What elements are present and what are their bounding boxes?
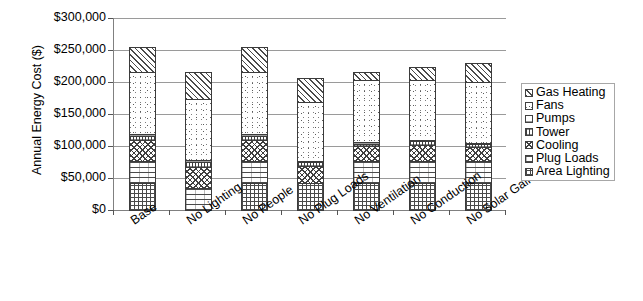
y-axis-tick-label: $150,000 [16,106,106,120]
bar-base [129,47,156,210]
legend-swatch-icon [525,102,533,110]
plot-area [113,18,506,211]
legend-swatch-icon [525,168,533,176]
bar-no-plug-loads [297,78,324,210]
x-axis-tick-mark [113,210,114,215]
bar-segment-fans [465,82,492,143]
x-axis-tick-mark [393,210,394,215]
bar-segment-fans [297,102,324,162]
gridline [114,50,506,51]
bar-segment-cooling [353,146,380,162]
legend: Gas HeatingFansPumpsTowerCoolingPlug Loa… [521,83,615,181]
bar-segment-cooling [185,167,212,189]
legend-item-pumps: Pumps [525,112,610,125]
bar-segment-plug-loads [241,161,268,184]
bar-segment-fans [241,72,268,135]
bar-segment-gas-heating [185,72,212,100]
bar-segment-gas-heating [129,47,156,73]
legend-swatch-icon [525,115,533,123]
energy-cost-stacked-bar-chart: Annual Energy Cost ($) $300,000$250,000$… [0,0,643,301]
legend-item-label: Tower [536,126,569,139]
legend-swatch-icon [525,89,533,97]
bar-segment-cooling [465,147,492,162]
legend-item-label: Pumps [536,112,575,125]
bar-segment-gas-heating [353,72,380,82]
legend-swatch-icon [525,128,533,136]
y-axis-tick-label: $100,000 [16,138,106,152]
y-axis-tick-label: $50,000 [16,170,106,184]
bar-segment-cooling [409,145,436,163]
legend-item-tower: Tower [525,126,610,139]
bar-segment-gas-heating [465,63,492,83]
x-axis-tick-mark [449,210,450,215]
legend-item-cooling: Cooling [525,139,610,152]
y-axis-tick-label: $250,000 [16,42,106,56]
bar-segment-fans [185,99,212,162]
y-axis-tick-label: $200,000 [16,74,106,88]
x-axis-tick-mark [281,210,282,215]
bar-segment-plug-loads [129,161,156,184]
legend-swatch-icon [525,155,533,163]
bar-segment-cooling [297,166,324,185]
x-axis-tick-mark [337,210,338,215]
legend-item-label: Area Lighting [536,165,610,178]
bar-segment-gas-heating [409,67,436,81]
bar-segment-cooling [129,140,156,162]
legend-swatch-icon [525,141,533,149]
bar-segment-cooling [241,140,268,162]
bar-segment-gas-heating [241,47,268,73]
x-axis-tick-mark [169,210,170,215]
bar-no-lighting [185,72,212,210]
bar-segment-fans [129,72,156,135]
x-axis-tick-mark [505,210,506,215]
bar-segment-fans [409,80,436,141]
y-axis-tick-label: $300,000 [16,10,106,24]
y-axis-tick-label: $0 [16,202,106,216]
bar-segment-fans [353,80,380,143]
legend-item-area-lighting: Area Lighting [525,165,610,178]
bar-segment-gas-heating [297,78,324,102]
bar-no-people [241,47,268,210]
x-axis-tick-mark [225,210,226,215]
gridline [114,18,506,19]
legend-item-label: Cooling [536,139,578,152]
